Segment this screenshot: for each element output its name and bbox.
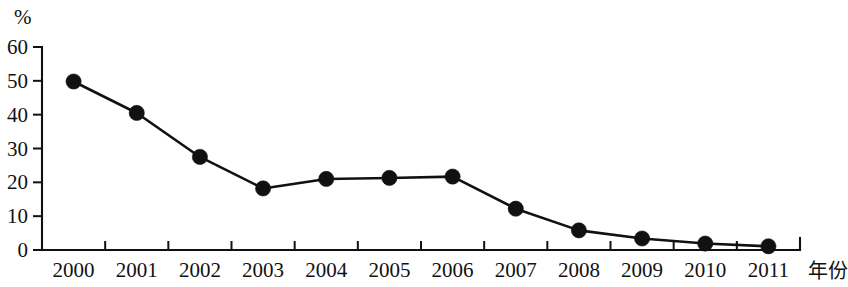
data-point	[129, 105, 144, 120]
line-chart: % 0102030405060 200020012002200320042005…	[0, 0, 848, 287]
data-point	[192, 149, 207, 164]
data-point	[255, 181, 270, 196]
x-tick-label: 2006	[432, 258, 474, 282]
y-tick-label: 20	[7, 170, 28, 194]
data-point	[445, 169, 460, 184]
y-tick-label: 50	[7, 69, 28, 93]
x-tick-label: 2003	[242, 258, 284, 282]
x-tick-label: 2000	[53, 258, 95, 282]
y-tick-label: 40	[7, 103, 28, 127]
data-point	[66, 74, 81, 89]
x-tick-label: 2009	[621, 258, 663, 282]
y-tick-label: 10	[7, 204, 28, 228]
y-tick-label: 60	[7, 35, 28, 59]
x-tick-label: 2001	[116, 258, 158, 282]
x-tick-label: 2011	[748, 258, 789, 282]
x-tick-label: 2010	[684, 258, 726, 282]
y-axis-ticks	[33, 47, 42, 250]
y-tick-label: 30	[7, 137, 28, 161]
y-axis-unit-label: %	[14, 5, 32, 29]
data-point	[382, 170, 397, 185]
x-tick-label: 2007	[495, 258, 537, 282]
data-point-markers	[66, 74, 776, 254]
data-point	[698, 236, 713, 251]
x-tick-label: 2004	[305, 258, 348, 282]
x-axis-tick-labels: 2000200120022003200420052006200720082009…	[53, 258, 789, 282]
data-point	[634, 231, 649, 246]
x-tick-label: 2008	[558, 258, 600, 282]
x-axis-title: 年份	[808, 259, 848, 283]
y-axis-tick-labels: 0102030405060	[7, 35, 28, 262]
data-point	[761, 239, 776, 254]
data-series-line	[74, 82, 769, 247]
data-point	[508, 201, 523, 216]
data-point	[319, 171, 334, 186]
data-point	[571, 223, 586, 238]
y-tick-label: 0	[18, 238, 29, 262]
x-tick-label: 2002	[179, 258, 221, 282]
chart-page: % 0102030405060 200020012002200320042005…	[0, 0, 848, 287]
x-tick-label: 2005	[368, 258, 410, 282]
